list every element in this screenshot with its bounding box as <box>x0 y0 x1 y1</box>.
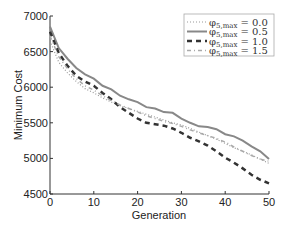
y-tick-label: 6000 <box>24 81 48 93</box>
y-tick-label: 6500 <box>24 46 48 58</box>
y-tick-label: 4500 <box>24 188 48 200</box>
x-tick-label: 40 <box>219 196 231 208</box>
y-axis-label: Minimum Cost <box>12 70 24 140</box>
x-tick-label: 50 <box>263 196 275 208</box>
legend: φ5,max= 0.0φ5,max= 0.5φ5,max= 1.0φ5,max=… <box>184 14 274 58</box>
y-tick-label: 5500 <box>24 117 48 129</box>
x-tick-label: 20 <box>131 196 143 208</box>
y-tick-label: 7000 <box>24 10 48 22</box>
series-line-dotted <box>50 41 269 163</box>
y-tick-label: 5000 <box>24 152 48 164</box>
line-chart: 01020304050450050005500600065007000 φ5,m… <box>0 0 288 226</box>
x-tick-label: 10 <box>88 196 100 208</box>
x-axis-label: Generation <box>132 209 186 221</box>
x-tick-label: 30 <box>175 196 187 208</box>
